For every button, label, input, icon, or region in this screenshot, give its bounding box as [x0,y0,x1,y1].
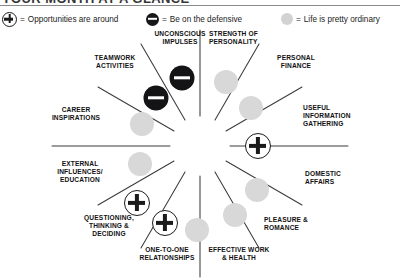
minus-circle-icon [146,13,159,26]
legend-label: Be on the defensive [170,15,242,24]
masthead: YOUR MONTH AT A GLANCE [0,0,400,4]
legend-label: Opportunities are around [28,15,119,24]
marker-personal-finance [239,96,263,120]
marker-useful-information-gathering [245,133,271,159]
marker-strength-of-personality [214,70,238,94]
marker-questioning-thinking-deciding [124,190,150,216]
legend-equals: = [162,15,167,24]
sector-label-questioning-thinking-deciding: QUESTIONING, THINKING & DECIDING [78,214,140,239]
sector-label-effective-work-health: EFFECTIVE WORK & HEALTH [206,246,272,262]
sector-label-teamwork-activities: TEAMWORK ACTIVITIES [86,54,144,70]
legend-item-opportunities: = Opportunities are around [2,9,118,29]
sector-label-external-influences-education: EXTERNAL INFLUENCES/ EDUCATION [48,160,112,185]
legend-equals: = [296,15,301,24]
sector-label-pleasure-romance: PLEASURE & ROMANCE [264,216,322,232]
sector-label-strength-of-personality: STRENGTH OF PERSONALITY [209,30,267,46]
horoscope-wheel-page: YOUR MONTH AT A GLANCE = Opportunities a… [0,0,400,279]
masthead-divider [0,5,400,6]
legend: = Opportunities are around = Be on the d… [0,9,400,29]
page-title: YOUR MONTH AT A GLANCE [0,0,400,4]
marker-unconscious-impulses [170,66,194,90]
marker-effective-work-health [185,218,209,242]
wheel-diagram: UNCONSCIOUS IMPULSES STRENGTH OF PERSONA… [0,28,400,279]
sector-label-domestic-affairs: DOMESTIC AFFAIRS [305,170,361,186]
marker-teamwork-activities [144,86,168,110]
legend-item-ordinary: = Life is pretty ordinary [281,9,380,29]
sector-label-unconscious-impulses: UNCONSCIOUS IMPULSES [150,30,210,46]
legend-label: Life is pretty ordinary [304,15,380,24]
sector-label-career-inspirations: CAREER INSPIRATIONS [46,106,106,122]
marker-domestic-affairs [245,178,269,202]
legend-item-defensive: = Be on the defensive [146,9,242,29]
plus-circle-icon [2,12,17,27]
marker-career-inspirations [130,112,154,136]
marker-one-to-one-relationships [152,210,178,236]
marker-external-influences-education [128,152,152,176]
marker-pleasure-romance [223,203,247,227]
gray-circle-icon [281,13,293,25]
sector-label-personal-finance: PERSONAL FINANCE [268,54,324,70]
sector-label-useful-information-gathering: USEFUL INFORMATION GATHERING [303,104,363,129]
legend-equals: = [20,15,25,24]
sector-label-one-to-one-relationships: ONE-TO-ONE RELATIONSHIPS [134,246,200,262]
